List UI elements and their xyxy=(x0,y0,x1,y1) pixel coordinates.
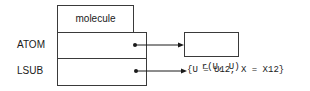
lsub-pointer xyxy=(134,69,187,74)
lsub-target-text: {U = U12, X = X12} xyxy=(187,65,284,75)
atom-target-box: r(U, U) xyxy=(184,32,239,57)
atom-pointer xyxy=(133,43,184,48)
pointer-arrows xyxy=(0,0,310,91)
